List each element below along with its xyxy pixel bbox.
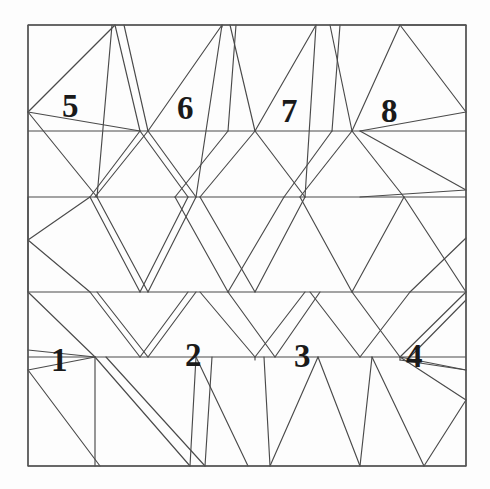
vertex-label-7: 7 <box>281 95 298 128</box>
diagram-canvas: 12345678 <box>0 0 490 489</box>
vertex-label-4: 4 <box>406 340 423 373</box>
vertex-label-8: 8 <box>381 95 398 128</box>
diagram-background <box>0 0 490 489</box>
lattice-diagram <box>0 0 490 489</box>
vertex-label-2: 2 <box>185 339 202 372</box>
vertex-label-5: 5 <box>62 90 79 123</box>
vertex-label-6: 6 <box>177 92 194 125</box>
vertex-label-1: 1 <box>51 344 68 377</box>
vertex-label-3: 3 <box>294 340 311 373</box>
